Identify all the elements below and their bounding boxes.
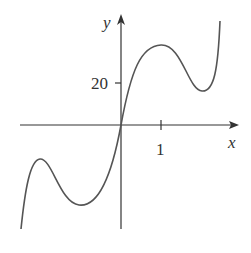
y-tick-label-20: 20 <box>91 74 108 93</box>
x-axis-label: x <box>227 133 236 152</box>
y-axis-label: y <box>101 13 111 32</box>
plot-svg: y x 1 20 <box>0 0 251 253</box>
function-graph: y x 1 20 <box>0 0 251 253</box>
x-tick-label-1: 1 <box>156 140 165 159</box>
